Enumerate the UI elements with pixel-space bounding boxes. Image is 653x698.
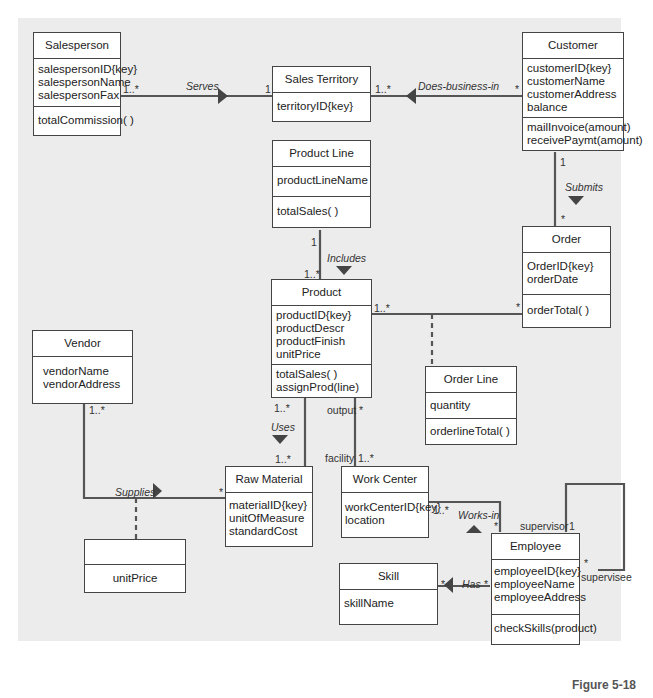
class-name: Raw Material <box>226 467 312 493</box>
multiplicity: 1 <box>560 156 566 168</box>
attributes: customerID{key}customerNamecustomerAddre… <box>523 59 623 118</box>
includes-direction-icon <box>336 266 352 275</box>
attributes: unitPrice <box>85 565 185 592</box>
attributes: productID{key}productDescrproductFinishu… <box>272 306 371 365</box>
operations: checkSkills(product) <box>492 615 579 644</box>
has-direction-icon <box>444 577 453 593</box>
class-salesperson[interactable]: Salesperson salespersonID{key}salesperso… <box>33 32 121 136</box>
multiplicity: * <box>515 83 519 95</box>
attributes: workCenterID{key}location <box>342 493 428 537</box>
class-supplies-association[interactable]: unitPrice <box>84 539 186 593</box>
association-name-serves: Serves <box>186 80 219 92</box>
multiplicity: 1 <box>569 520 575 532</box>
class-order-line[interactable]: Order Line quantity orderlineTotal( ) <box>425 366 517 445</box>
attributes: vendorNamevendorAddress <box>33 357 132 403</box>
figure-caption: Figure 5-18 <box>572 678 636 692</box>
association-name-does-business-in: Does-business-in <box>418 80 499 92</box>
association-name-uses: Uses <box>271 421 295 433</box>
multiplicity: * <box>359 404 363 416</box>
multiplicity: * <box>441 578 445 590</box>
multiplicity: 1..* <box>358 452 374 464</box>
submits-direction-icon <box>568 196 584 205</box>
class-customer[interactable]: Customer customerID{key}customerNamecust… <box>522 32 624 151</box>
attributes: employeeID{key}employeeNameemployeeAddre… <box>492 560 579 615</box>
multiplicity: * <box>561 213 565 225</box>
multiplicity: * <box>584 557 588 569</box>
multiplicity: * <box>219 486 223 498</box>
multiplicity: 1..* <box>375 83 391 95</box>
uses-direction-icon <box>272 435 288 444</box>
class-name: Customer <box>523 33 623 59</box>
multiplicity: * <box>494 520 498 532</box>
multiplicity: 1..* <box>274 402 290 414</box>
attributes: OrderID{key}orderDate <box>523 253 610 295</box>
multiplicity: * <box>516 301 520 313</box>
class-name: Order Line <box>426 367 516 393</box>
class-sales-territory[interactable]: Sales Territory territoryID{key} <box>272 66 371 122</box>
attributes: quantity <box>426 393 516 419</box>
association-name-includes: Includes <box>327 252 366 264</box>
class-raw-material[interactable]: Raw Material materialID{key}unitOfMeasur… <box>225 466 313 547</box>
attributes: salespersonID{key}salespersonNamesalespe… <box>34 59 120 107</box>
class-product-line[interactable]: Product Line productLineName totalSales(… <box>272 140 371 228</box>
class-name: Salesperson <box>34 33 120 59</box>
operations: totalCommission( ) <box>34 107 120 135</box>
operations: mailInvoice(amount)receivePaymt(amount) <box>523 118 623 150</box>
operations: totalSales( ) <box>273 197 370 227</box>
class-name: Product <box>272 280 371 306</box>
class-name: Product Line <box>273 141 370 167</box>
attributes: materialID{key}unitOfMeasurestandardCost <box>226 493 312 546</box>
multiplicity: 1..* <box>275 453 291 465</box>
class-name <box>85 540 185 565</box>
multiplicity: * <box>484 578 488 590</box>
multiplicity: 1..* <box>304 268 320 280</box>
operations: totalSales( )assignProd(line) <box>272 365 371 397</box>
association-name-submits: Submits <box>565 181 603 193</box>
class-work-center[interactable]: Work Center workCenterID{key}location <box>341 466 429 538</box>
class-name: Vendor <box>33 331 132 357</box>
attributes: skillName <box>340 590 437 624</box>
class-name: Sales Territory <box>273 67 370 93</box>
class-name: Order <box>523 227 610 253</box>
operations: orderTotal( ) <box>523 295 610 327</box>
attributes: productLineName <box>273 167 370 197</box>
multiplicity: 1..* <box>374 302 390 314</box>
operations: orderlineTotal( ) <box>426 419 516 444</box>
role-facility: facility <box>325 452 354 464</box>
class-name: Work Center <box>342 467 428 493</box>
multiplicity: 1 <box>311 236 317 248</box>
multiplicity: 1 <box>265 83 271 95</box>
class-skill[interactable]: Skill skillName <box>339 563 438 625</box>
multiplicity: 1..* <box>123 83 139 95</box>
attributes: territoryID{key} <box>273 93 370 121</box>
association-name-has: Has <box>462 578 481 590</box>
class-product[interactable]: Product productID{key}productDescrproduc… <box>271 279 372 398</box>
class-name: Employee <box>492 534 579 560</box>
class-employee[interactable]: Employee employeeID{key}employeeNameempl… <box>491 533 580 645</box>
works-in-direction-icon <box>466 525 482 533</box>
class-vendor[interactable]: Vendor vendorNamevendorAddress <box>32 330 133 404</box>
class-order[interactable]: Order OrderID{key}orderDate orderTotal( … <box>522 226 611 328</box>
serves-direction-icon <box>218 88 228 104</box>
role-supervisee: supervisee <box>581 571 632 583</box>
role-supervisor: supervisor <box>520 520 568 532</box>
role-output: output <box>327 404 356 416</box>
multiplicity: 1..* <box>433 504 449 516</box>
multiplicity: 1..* <box>89 404 105 416</box>
association-name-supplies: Supplies <box>115 486 155 498</box>
class-name: Skill <box>340 564 437 590</box>
does-business-in-direction-icon <box>406 88 416 104</box>
